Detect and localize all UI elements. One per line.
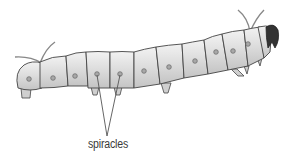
caterpillar-diagram [0, 0, 296, 158]
body-segments [17, 26, 272, 90]
head [266, 25, 279, 48]
spiracles-label: spiracles [88, 137, 128, 151]
